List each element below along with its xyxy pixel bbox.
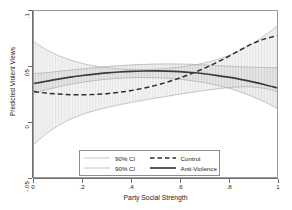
legend-label: Anti-Violence bbox=[181, 165, 217, 172]
ci-band-swatch-icon bbox=[84, 164, 110, 172]
x-tick-label: .4 bbox=[121, 184, 141, 190]
legend-item-anti-violence: Anti-Violence bbox=[150, 164, 216, 172]
x-tick-label: 1 bbox=[268, 184, 288, 190]
dashed-line-swatch-icon bbox=[150, 154, 176, 162]
ci-edge-control-upper bbox=[34, 26, 277, 69]
ci-band-swatch-icon bbox=[84, 154, 110, 162]
y-tick-label: .05 bbox=[24, 69, 30, 78]
legend-item-ci-1: 90% CI bbox=[84, 154, 150, 162]
y-tick-label: 0 bbox=[24, 125, 30, 128]
x-axis-title: Party Social Strength bbox=[33, 194, 278, 201]
chart-legend: 90% CI Control 90% CI bbox=[79, 150, 220, 176]
x-axis-line bbox=[33, 178, 278, 179]
y-tick-mark bbox=[28, 122, 32, 123]
legend-label: 90% CI bbox=[115, 155, 135, 162]
x-tick-label: .6 bbox=[170, 184, 190, 190]
chart-figure: -.050.05.1 Predicted Violent Views 0.2.4… bbox=[0, 0, 292, 210]
y-axis-line bbox=[32, 10, 33, 178]
y-tick-mark bbox=[28, 178, 32, 179]
x-tick-label: .8 bbox=[219, 184, 239, 190]
solid-line-swatch-icon bbox=[150, 164, 176, 172]
x-tick-label: 0 bbox=[23, 184, 43, 190]
legend-row: 90% CI Control bbox=[84, 153, 215, 163]
y-tick-mark bbox=[28, 66, 32, 67]
legend-label: 90% CI bbox=[115, 165, 135, 172]
legend-row: 90% CI Anti-Violence bbox=[84, 163, 215, 173]
legend-item-ci-2: 90% CI bbox=[84, 164, 150, 172]
y-tick-label: .1 bbox=[24, 13, 30, 18]
legend-label: Control bbox=[181, 155, 201, 162]
y-axis-title: Predicted Violent Views bbox=[9, 17, 16, 147]
y-tick-mark bbox=[28, 10, 32, 11]
legend-item-control: Control bbox=[150, 154, 216, 162]
x-tick-label: .2 bbox=[72, 184, 92, 190]
